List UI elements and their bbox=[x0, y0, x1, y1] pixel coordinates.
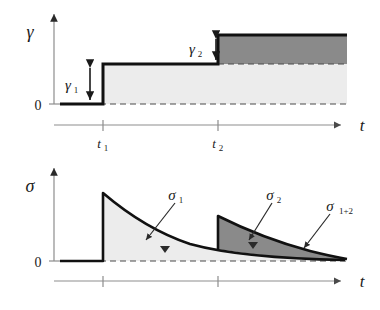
sigma1-label-base: σ bbox=[168, 187, 176, 203]
stress-y-axis-label: σ bbox=[26, 176, 36, 196]
strain-tick-label-t2-sub: 2 bbox=[219, 143, 224, 153]
strain-gamma1-shaded-region bbox=[103, 64, 347, 104]
sigma2-label-sub: 2 bbox=[277, 195, 282, 205]
sigma-total-label-sub: 1+2 bbox=[339, 206, 353, 216]
strain-tick-label-t2: t 2 bbox=[212, 136, 223, 153]
gamma2-annotation-label: γ 2 bbox=[189, 41, 202, 59]
gamma1-label-base: γ bbox=[65, 77, 72, 93]
physics-figure: γ 0 t t 1 t 2 γ 1 γ 2 bbox=[0, 0, 380, 310]
strain-tick-label-t1-base: t bbox=[97, 136, 101, 151]
sigma1-label-sub: 1 bbox=[179, 195, 184, 205]
sigma-total-label-base: σ bbox=[326, 198, 334, 214]
sigma-total-annotation-label: σ 1+2 bbox=[326, 198, 353, 216]
sigma2-annotation-label: σ 2 bbox=[266, 187, 281, 205]
sigma-total-leader-arrow bbox=[304, 214, 330, 248]
strain-panel: γ 0 t t 1 t 2 γ 1 γ 2 bbox=[26, 14, 365, 153]
stress-x-axis-label: t bbox=[360, 272, 366, 291]
strain-tick-label-t1-sub: 1 bbox=[104, 143, 109, 153]
strain-origin-label: 0 bbox=[35, 98, 42, 113]
sigma2-label-base: σ bbox=[266, 187, 274, 203]
gamma2-label-sub: 2 bbox=[198, 49, 203, 59]
gamma2-label-base: γ bbox=[189, 41, 196, 57]
figure-root: γ 0 t t 1 t 2 γ 1 γ 2 bbox=[0, 0, 380, 310]
strain-gamma2-shaded-region bbox=[218, 35, 347, 64]
gamma1-label-sub: 1 bbox=[74, 85, 79, 95]
strain-y-axis-label: γ bbox=[26, 22, 34, 42]
gamma1-annotation-label: γ 1 bbox=[65, 77, 78, 95]
sigma1-annotation-label: σ 1 bbox=[168, 187, 183, 205]
stress-panel: σ 0 t σ 1 σ 2 σ 1+2 bbox=[26, 168, 366, 291]
strain-tick-label-t2-base: t bbox=[212, 136, 216, 151]
strain-tick-label-t1: t 1 bbox=[97, 136, 108, 153]
strain-x-axis-label: t bbox=[360, 116, 366, 135]
stress-origin-label: 0 bbox=[35, 255, 42, 270]
